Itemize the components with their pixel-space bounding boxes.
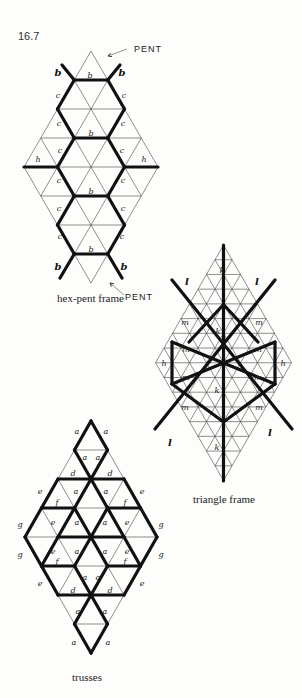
strut-label: m (255, 403, 263, 412)
strut-label: a (76, 607, 81, 616)
strut-label: a (75, 547, 80, 556)
bold-member (58, 508, 75, 537)
pent-label: PENT (125, 292, 153, 302)
strut-label: l (268, 427, 272, 438)
strut-label: b (87, 71, 92, 80)
strut-label: g (17, 550, 22, 559)
strut-label: m (255, 318, 263, 327)
strut-label: b (55, 261, 62, 272)
strut-label: m (254, 345, 262, 354)
strut-label: c (120, 232, 125, 241)
strut-label: a (104, 427, 109, 436)
bold-member (62, 65, 74, 80)
strut-label: a (75, 518, 80, 527)
strut-label: d (70, 469, 75, 478)
figure-page: 16.7 bbbcccbcchchcbccccbcbbkllmmkmmhhmmk… (0, 0, 302, 698)
hex-pent-frame-caption: hex-pent frame (57, 292, 124, 304)
strut-label: h (161, 359, 166, 368)
strut-label: e (140, 487, 145, 496)
bold-member (60, 254, 74, 278)
strut-label: a (96, 573, 101, 582)
hex-pent-diagram: bbbcccbcchchcbccccbcbb (24, 51, 158, 283)
bold-member (141, 508, 158, 537)
strut-label: k (216, 327, 221, 336)
strut-label: a (106, 638, 111, 647)
bold-member (124, 566, 141, 595)
strut-label: c (122, 91, 127, 100)
strut-label: e (38, 579, 43, 588)
bold-member (141, 537, 158, 566)
strut-label: f (55, 498, 61, 507)
strut-label: c (57, 176, 62, 185)
strut-label: b (88, 187, 93, 196)
strut-label: b (121, 261, 128, 272)
strut-label: m (181, 318, 189, 327)
strut-label: f (123, 498, 129, 507)
strut-label: e (140, 579, 145, 588)
strut-label: c (121, 119, 126, 128)
strut-label: b (119, 67, 126, 78)
strut-label: l (168, 437, 172, 448)
strut-label: g (158, 520, 163, 529)
strut-label: a (83, 453, 88, 462)
strut-label: e (38, 487, 43, 496)
strut-label: a (74, 487, 79, 496)
strut-label: h (280, 359, 285, 368)
strut-label: e (51, 547, 56, 556)
strut-label: m (254, 373, 262, 382)
strut-label: a (103, 547, 108, 556)
strut-label: h (141, 155, 146, 164)
strut-label: b (88, 129, 93, 138)
strut-label: m (182, 345, 190, 354)
strut-label: h (35, 155, 40, 164)
bold-member (42, 566, 59, 595)
strut-label: a (83, 573, 88, 582)
strut-label: c (56, 91, 61, 100)
strut-label: g (17, 520, 22, 529)
triangle-frame-caption: triangle frame (193, 493, 255, 505)
strut-label: a (103, 518, 108, 527)
strut-label: c (121, 204, 126, 213)
strut-label: a (72, 638, 77, 647)
strut-label: c (120, 146, 125, 155)
strut-label: c (58, 146, 63, 155)
strut-label: a (104, 487, 109, 496)
lattice-diagrams: bbbcccbcchchcbccccbcbbkllmmkmmhhmmkmmllk… (0, 0, 302, 698)
strut-label: a (96, 453, 101, 462)
strut-label: a (103, 607, 108, 616)
arrow-icon (108, 49, 127, 56)
strut-label: d (107, 586, 112, 595)
bold-member (224, 384, 276, 422)
strut-label: e (125, 518, 130, 527)
strut-label: k (220, 266, 225, 275)
bold-member (75, 624, 92, 653)
trusses-caption: trusses (72, 671, 102, 683)
pent-annotation: PENT (108, 44, 162, 57)
strut-label: e (125, 547, 130, 556)
pent-label: PENT (134, 44, 162, 54)
bold-member (25, 508, 42, 537)
strut-label: c (121, 176, 126, 185)
triangle-diagram: kllmmkmmhhmmkmmllk (155, 245, 292, 481)
strut-label: b (88, 245, 93, 254)
strut-label: k (215, 443, 220, 452)
strut-label: c (58, 232, 63, 241)
strut-label: m (181, 403, 189, 412)
strut-label: l (185, 276, 189, 287)
trusses-diagram: aaaaddeaaeffgeaaeggeaaegffeaaeddaaaa (17, 421, 163, 653)
strut-label: e (51, 518, 56, 527)
strut-label: a (75, 427, 80, 436)
strut-label: k (215, 386, 220, 395)
strut-label: l (255, 276, 259, 287)
strut-label: d (70, 586, 75, 595)
strut-label: m (182, 373, 190, 382)
strut-label: g (158, 550, 163, 559)
strut-label: d (107, 469, 112, 478)
strut-label: b (55, 67, 62, 78)
strut-label: c (57, 204, 62, 213)
bold-member (25, 537, 42, 566)
bold-member (108, 508, 125, 537)
strut-label: c (57, 119, 62, 128)
